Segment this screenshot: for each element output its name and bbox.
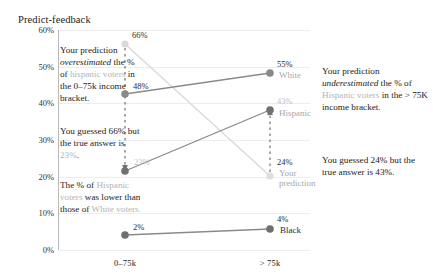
series-label-white: White xyxy=(279,70,301,80)
annotation-left-top: Your prediction overestimated the % of h… xyxy=(60,45,144,105)
ann-rt-emph: underestimated xyxy=(322,78,378,88)
series-label-black: Black xyxy=(280,225,301,235)
annotation-left-mid: You guessed 66% but the true answer is 2… xyxy=(60,126,144,162)
series-label-your-prediction: Your prediction xyxy=(279,168,321,189)
series-label-hispanic: Hispanic xyxy=(279,108,311,118)
datapoint-your-prediction-high[interactable] xyxy=(266,172,273,179)
series-line-black xyxy=(125,229,270,235)
ann-lm-part1: You guessed 66% but the true answer is xyxy=(60,126,139,148)
datapoint-black-high[interactable] xyxy=(266,225,274,233)
predict-feedback-chart: Predict-feedback 0% 10% 20% 30% 40% 50% … xyxy=(0,0,433,275)
ann-lt-part1: Your prediction xyxy=(60,45,118,55)
ann-lm-part3: . xyxy=(77,150,79,160)
annotation-right-bottom: You guessed 24% but the true answer is 4… xyxy=(322,155,426,179)
ann-lb-part1: The % of xyxy=(60,180,96,190)
value-label-your-prediction-low: 66% xyxy=(132,31,148,41)
datapoint-white-high[interactable] xyxy=(266,69,274,77)
ann-rt-muted: Hispanic voters xyxy=(322,90,379,100)
ann-lm-value: 23% xyxy=(60,150,77,160)
ann-rb-part1: You guessed 24% but the true answer is 4… xyxy=(322,155,415,177)
value-label-black-high: 4% xyxy=(277,215,288,225)
ann-lb-muted2: White voters. xyxy=(91,204,141,214)
value-label-your-prediction-high: 24% xyxy=(277,158,293,168)
value-label-hispanic-high: 43% xyxy=(277,97,293,107)
annotation-right-top: Your prediction underestimated the % of … xyxy=(322,66,428,114)
ann-rt-part1: Your prediction xyxy=(322,66,380,76)
annotation-left-bottom: The % of Hispanic voters was lower than … xyxy=(60,180,146,216)
ann-lt-muted: hispanic voters xyxy=(70,69,125,79)
ann-rt-part3: the % of xyxy=(378,78,411,88)
datapoint-black-low[interactable] xyxy=(121,231,129,239)
value-label-white-high: 55% xyxy=(277,60,293,70)
ann-lt-emph: overestimated xyxy=(60,57,111,67)
datapoint-hispanic-high[interactable] xyxy=(266,106,274,114)
datapoint-hispanic-low[interactable] xyxy=(121,167,129,175)
value-label-black-low: 2% xyxy=(133,223,144,233)
